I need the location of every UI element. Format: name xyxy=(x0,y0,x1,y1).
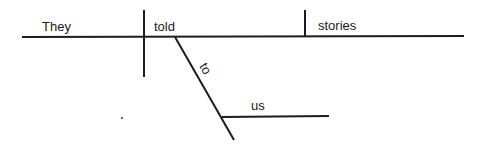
verb-word: told xyxy=(154,19,175,34)
main-baseline xyxy=(22,36,464,37)
speck-mark xyxy=(121,117,123,119)
prep-object-word: us xyxy=(251,98,265,113)
sentence-diagram: They told stories to us xyxy=(0,0,484,147)
preposition-word: to xyxy=(196,60,214,77)
preposition-slant-line xyxy=(175,37,234,140)
subject-word: They xyxy=(42,19,71,34)
prep-object-line xyxy=(222,116,329,117)
object-word: stories xyxy=(318,18,357,33)
